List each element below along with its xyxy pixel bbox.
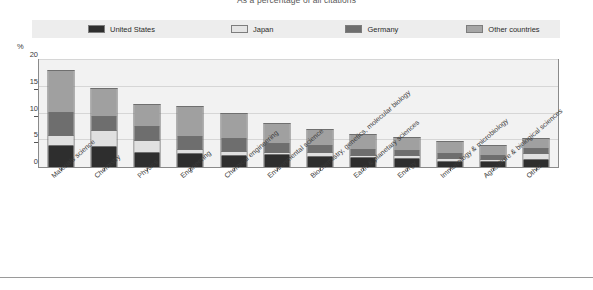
bar-segment	[221, 114, 246, 140]
bar-segment	[91, 117, 116, 131]
x-axis-category-labels: Materials scienceChemistryPhysicsEnginee…	[0, 168, 593, 258]
y-axis-tick-label: 20	[24, 50, 38, 59]
y-axis-tick-mark	[34, 116, 38, 117]
bar-segment	[264, 144, 289, 152]
bar-segment	[135, 141, 160, 153]
stacked-bar[interactable]	[134, 104, 161, 167]
bar-segment	[437, 142, 462, 154]
bar-segment	[221, 139, 246, 151]
legend-label: Germany	[367, 25, 398, 34]
legend-swatch-icon	[466, 25, 483, 33]
bar-segment	[48, 113, 73, 136]
bar-segment	[308, 146, 333, 153]
bar-segment	[135, 105, 160, 126]
y-axis-tick-mark	[34, 142, 38, 143]
legend-label: Japan	[253, 25, 273, 34]
bar-segment	[91, 131, 116, 147]
legend-swatch-icon	[345, 25, 362, 33]
chart-legend: United States Japan Germany Other countr…	[32, 20, 560, 38]
legend-item-japan: Japan	[231, 25, 273, 34]
bar-slot	[385, 60, 428, 167]
bar-segment	[178, 137, 203, 150]
bar-slot	[82, 60, 125, 167]
bar-segment	[481, 146, 506, 156]
bar-segment	[135, 127, 160, 142]
legend-item-united-states: United States	[88, 25, 155, 34]
bar-segment	[48, 71, 73, 112]
stacked-bar[interactable]	[47, 70, 74, 167]
footer-divider	[0, 277, 593, 278]
page-title: As a percentage of all citations	[0, 0, 593, 6]
bar-slot	[126, 60, 169, 167]
y-axis-tick-marks	[0, 59, 40, 169]
legend-item-germany: Germany	[345, 25, 398, 34]
legend-label: United States	[110, 25, 155, 34]
bar-segment	[91, 89, 116, 117]
legend-label: Other countries	[488, 25, 539, 34]
y-axis-tick-mark	[34, 89, 38, 90]
legend-swatch-icon	[231, 25, 248, 33]
y-axis-unit-label: %	[17, 42, 24, 51]
legend-swatch-icon	[88, 25, 105, 33]
bar-segment	[48, 136, 73, 146]
legend-item-other-countries: Other countries	[466, 25, 539, 34]
bar-segment	[178, 107, 203, 137]
